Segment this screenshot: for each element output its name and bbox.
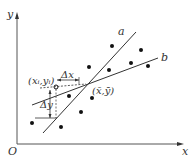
delta-y-down-arrow-icon [49,114,52,118]
data-point [87,65,91,69]
delta-x-label: Δx [60,69,74,80]
y-axis-arrow-icon [15,12,19,19]
data-point [129,61,133,65]
x-axis-label: x [182,145,189,158]
regression-diagram: y O x a b Δx Δy (xᵢ,yᵢ) (x̄,ȳ) [0,0,196,166]
data-point [59,125,63,129]
delta-y-label: Δy [39,99,53,110]
mean-point-label: (x̄,ȳ) [92,85,114,96]
delta-x-right-arrow-icon [75,79,79,82]
delta-y-up-arrow-icon [49,90,52,94]
data-point [107,68,111,72]
origin-label: O [8,145,17,158]
y-axis-label: y [6,8,14,21]
data-point [79,110,83,114]
line-b-label: b [161,51,168,64]
data-point [90,96,94,100]
data-point [67,94,71,98]
data-points [30,44,150,129]
point-label: (xᵢ,yᵢ) [28,75,54,86]
data-point [30,121,34,125]
data-point [146,64,150,68]
data-point [139,48,143,52]
line-a-label: a [118,25,125,38]
diagram-canvas: y O x a b Δx Δy (xᵢ,yᵢ) (x̄,ȳ) [0,0,196,166]
data-point [110,44,114,48]
